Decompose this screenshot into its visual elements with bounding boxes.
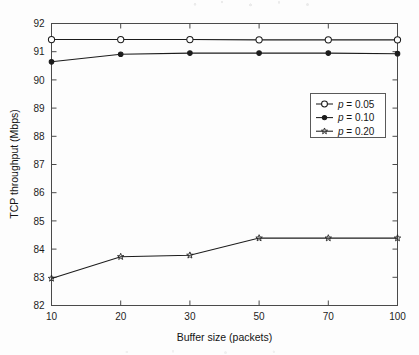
series-1-point-3 — [187, 36, 193, 42]
y-tick-label: 82 — [33, 300, 45, 311]
y-tick-label: 83 — [33, 272, 45, 283]
legend-value: = 0.10 — [344, 112, 375, 123]
x-axis-title: Buffer size (packets) — [177, 331, 273, 343]
legend-label: p = 0.20 — [337, 126, 375, 137]
x-tick-label: 100 — [389, 311, 406, 322]
legend-label: p = 0.05 — [337, 99, 375, 110]
y-tick-label: 90 — [33, 75, 45, 86]
y-tick-label: 92 — [33, 18, 45, 29]
y-tick-label: 87 — [33, 159, 45, 170]
y-tick-label: 89 — [33, 103, 45, 114]
axes-frame — [52, 24, 398, 306]
legend-entries[interactable]: p = 0.05p = 0.10p = 0.20 — [316, 99, 375, 137]
series-2-point-3 — [188, 51, 193, 56]
legend-marker-filled-circle — [322, 115, 326, 119]
series-2-point-4 — [257, 51, 262, 56]
series-1-point-6 — [394, 37, 400, 43]
legend-value: = 0.05 — [344, 99, 375, 110]
y-axis-title: TCP throughput (Mbps) — [8, 109, 20, 219]
series-markers-group — [48, 36, 400, 281]
legend[interactable]: p = 0.05p = 0.10p = 0.20 — [311, 94, 386, 138]
series-2-point-2 — [118, 52, 123, 57]
x-axis-tick-labels: 1020305070100 — [46, 311, 406, 322]
x-tick-label: 70 — [323, 311, 335, 322]
legend-marker-open-circle — [322, 101, 328, 107]
figure-container: 8283848586878889909192 1020305070100 Buf… — [0, 0, 419, 355]
x-tick-label: 20 — [115, 311, 127, 322]
y-tick-label: 84 — [33, 244, 45, 255]
series-1-point-4 — [256, 37, 262, 43]
line-chart: 8283848586878889909192 1020305070100 Buf… — [0, 0, 419, 355]
x-axis-ticks — [52, 24, 398, 306]
y-axis-ticks — [52, 24, 398, 306]
y-axis-tick-labels: 8283848586878889909192 — [33, 18, 45, 311]
series-2-point-1 — [49, 60, 54, 65]
series-lines-group — [52, 40, 398, 279]
series-2-point-5 — [326, 51, 331, 56]
y-tick-label: 86 — [33, 187, 45, 198]
y-tick-label: 88 — [33, 131, 45, 142]
x-tick-label: 50 — [254, 311, 266, 322]
series-line-2 — [52, 53, 398, 62]
series-line-3 — [52, 238, 398, 278]
legend-value: = 0.20 — [344, 126, 375, 137]
y-tick-label: 85 — [33, 216, 45, 227]
legend-label: p = 0.10 — [337, 112, 375, 123]
y-tick-label: 91 — [33, 46, 45, 57]
x-tick-label: 30 — [184, 311, 196, 322]
x-tick-label: 10 — [46, 311, 58, 322]
series-1-point-2 — [118, 36, 124, 42]
series-1-point-1 — [48, 36, 54, 42]
series-1-point-5 — [325, 37, 331, 43]
series-2-point-6 — [395, 51, 400, 56]
